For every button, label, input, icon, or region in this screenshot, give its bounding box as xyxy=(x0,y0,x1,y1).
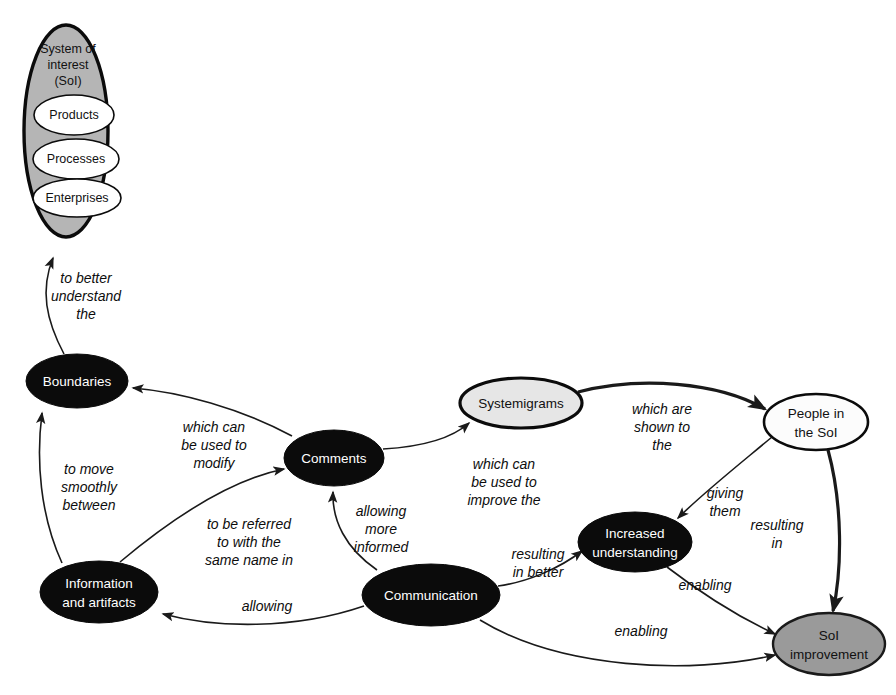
increased-label-line-2: understanding xyxy=(592,545,678,560)
lbl-sp-3: the xyxy=(652,437,672,453)
node-systemigrams[interactable]: Systemigrams xyxy=(460,378,582,428)
node-increased-understanding[interactable]: Increased understanding xyxy=(578,512,692,572)
lbl-ic-3: same name in xyxy=(205,552,293,568)
lbl-cmc-1: allowing xyxy=(356,503,407,519)
edge-label-enabling-communication: enabling xyxy=(615,623,668,639)
edge-label-which-can-be-used-to-improve-the: which can be used to improve the xyxy=(467,456,540,508)
edge-label-resulting-in-better: resulting in better xyxy=(512,546,565,580)
soi-label-line-3: (SoI) xyxy=(54,74,81,88)
edge-label-allowing-more-informed: allowing more informed xyxy=(354,503,410,555)
edge-information-to-boundaries xyxy=(39,413,62,563)
lbl-pi-2: them xyxy=(709,503,740,519)
lbl-bsoi-1: to better xyxy=(60,270,113,286)
improvement-label-line-2: improvement xyxy=(790,647,868,662)
node-system-of-interest[interactable]: System of interest (SoI) Products Proces… xyxy=(24,25,121,237)
lbl-ci-1: allowing xyxy=(242,598,293,614)
edge-label-to-move-smoothly-between: to move smoothly between xyxy=(61,461,118,513)
lbl-cs-1: which can xyxy=(473,456,535,472)
lbl-bsoi-2: understand xyxy=(51,288,122,304)
enterprises-label: Enterprises xyxy=(45,191,108,205)
soi-label-line-1: System of xyxy=(40,42,96,56)
edge-label-which-can-be-used-to-modify: which can be used to modify xyxy=(181,419,247,471)
lbl-cb-3: modify xyxy=(193,455,235,471)
lbl-pi-1: giving xyxy=(707,485,744,501)
people-label-line-1: People in xyxy=(788,406,844,421)
lbl-cs-3: improve the xyxy=(467,492,540,508)
increased-label-line-1: Increased xyxy=(605,526,664,541)
lbl-cb-1: which can xyxy=(183,419,245,435)
edge-label-allowing: allowing xyxy=(242,598,293,614)
lbl-ic-1: to be referred xyxy=(207,516,292,532)
lbl-ib-3: between xyxy=(63,497,116,513)
information-label-line-1: Information xyxy=(65,576,133,591)
comments-label: Comments xyxy=(301,451,367,466)
edge-label-which-are-shown-to-the: which are shown to the xyxy=(632,401,692,453)
lbl-pim-2: in xyxy=(772,535,783,551)
information-ellipse xyxy=(40,561,158,623)
node-boundaries[interactable]: Boundaries xyxy=(26,354,128,408)
lbl-cmc-3: informed xyxy=(354,539,410,555)
diagram-canvas: System of interest (SoI) Products Proces… xyxy=(0,0,896,695)
boundaries-label: Boundaries xyxy=(43,374,112,389)
node-people-in-the-soi[interactable]: People in the SoI xyxy=(764,394,868,450)
edge-label-enabling-increased: enabling xyxy=(679,577,732,593)
edge-people-to-improvement xyxy=(828,450,840,611)
communication-label: Communication xyxy=(384,588,478,603)
edge-label-to-better-understand-the: to better understand the xyxy=(51,270,122,322)
people-label-line-2: the SoI xyxy=(795,425,838,440)
edge-comments-to-systemigrams xyxy=(383,423,469,449)
information-label-line-2: and artifacts xyxy=(62,595,136,610)
node-soi-improvement[interactable]: SoI improvement xyxy=(773,613,885,675)
lbl-sp-1: which are xyxy=(632,401,692,417)
lbl-cinc-1: resulting xyxy=(512,546,565,562)
soi-label-line-2: interest xyxy=(48,58,90,72)
improvement-label-line-1: SoI xyxy=(819,628,839,643)
lbl-ib-1: to move xyxy=(64,461,114,477)
lbl-cim-1: enabling xyxy=(615,623,668,639)
lbl-cinc-2: in better xyxy=(513,564,565,580)
node-comments[interactable]: Comments xyxy=(284,430,384,486)
lbl-bsoi-3: the xyxy=(76,306,96,322)
lbl-cb-2: be used to xyxy=(181,437,247,453)
improvement-ellipse xyxy=(773,613,885,675)
lbl-iim-1: enabling xyxy=(679,577,732,593)
lbl-cmc-2: more xyxy=(365,521,397,537)
edge-label-giving-them: giving them xyxy=(707,485,744,519)
systemigrams-label: Systemigrams xyxy=(478,396,564,411)
lbl-ic-2: to with the xyxy=(217,534,281,550)
processes-label: Processes xyxy=(47,152,105,166)
increased-ellipse xyxy=(578,512,692,572)
systemigram-diagram: System of interest (SoI) Products Proces… xyxy=(0,0,896,695)
edge-label-to-be-referred-to-with-the-same-name-in: to be referred to with the same name in xyxy=(205,516,293,568)
lbl-sp-2: shown to xyxy=(634,419,690,435)
people-ellipse xyxy=(764,394,868,450)
edge-label-resulting-in: resulting in xyxy=(751,517,804,551)
lbl-pim-1: resulting xyxy=(751,517,804,533)
products-label: Products xyxy=(49,108,98,122)
lbl-ib-2: smoothly xyxy=(61,479,118,495)
node-information-and-artifacts[interactable]: Information and artifacts xyxy=(40,561,158,623)
lbl-cs-2: be used to xyxy=(471,474,537,490)
node-communication[interactable]: Communication xyxy=(362,564,500,626)
